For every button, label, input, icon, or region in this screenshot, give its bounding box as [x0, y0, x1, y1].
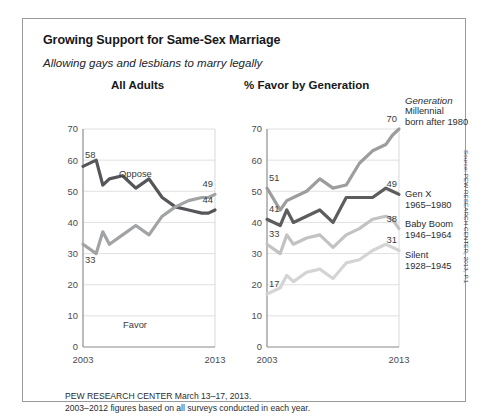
page-subtitle: Allowing gays and lesbians to marry lega… [43, 57, 262, 69]
footnote-line-1: PEW RESEARCH CENTER March 13–17, 2013. [65, 391, 251, 401]
y-axis-tick-label: 50 [68, 186, 78, 197]
y-axis-tick-label: 60 [252, 155, 262, 166]
start-value-label: 51 [269, 172, 279, 183]
footnote-line-2: 2003–2012 figures based on all surveys c… [65, 403, 310, 413]
y-axis-tick-label: 10 [68, 310, 78, 321]
end-value-label: 49 [387, 178, 397, 189]
legend-item-millennial: Millennialborn after 1980 [405, 106, 468, 128]
legend-item-years: 1928–1945 [405, 261, 452, 272]
legend-heading: Generation [405, 95, 452, 106]
legend-item-gen-x: Gen X1965–1980 [405, 189, 452, 211]
series-annotation-oppose: Oppose [119, 168, 152, 179]
y-axis-tick-label: 70 [252, 123, 262, 134]
y-axis-tick-label: 50 [252, 186, 262, 197]
y-axis-tick-label: 20 [252, 279, 262, 290]
source-credit: Source: PEW RESEARCH CENTER, 2013, P.1 [463, 150, 470, 310]
start-value-label: 33 [269, 228, 279, 239]
end-value-label: 38 [387, 213, 397, 224]
chart-by-generation: 010203040506070200320135170414933381731 [241, 115, 417, 377]
end-value-label: 44 [203, 194, 213, 205]
y-axis-tick-label: 40 [68, 217, 78, 228]
x-axis-tick-label: 2013 [389, 354, 410, 365]
start-value-label: 41 [269, 203, 279, 214]
series-line-favor [83, 194, 215, 253]
x-axis-tick-label: 2013 [205, 354, 226, 365]
start-value-label: 58 [85, 149, 95, 160]
end-value-label: 49 [203, 178, 213, 189]
legend-item-years: 1946–1964 [405, 230, 453, 241]
start-value-label: 33 [85, 254, 95, 265]
y-axis-tick-label: 30 [68, 248, 78, 259]
legend-item-baby-boom: Baby Boom1946–1964 [405, 219, 453, 241]
series-annotation-favor: Favor [123, 319, 147, 330]
y-axis-tick-label: 0 [73, 341, 78, 352]
start-value-label: 17 [269, 278, 279, 289]
series-line-millennial [267, 129, 399, 210]
end-value-label: 31 [387, 234, 397, 245]
y-axis-tick-label: 40 [252, 217, 262, 228]
y-axis-tick-label: 0 [257, 341, 262, 352]
legend-item-years: born after 1980 [405, 117, 468, 128]
page-title: Growing Support for Same-Sex Marriage [43, 33, 280, 47]
legend-item-silent: Silent1928–1945 [405, 250, 452, 272]
y-axis-tick-label: 30 [252, 248, 262, 259]
chart-card: Growing Support for Same-Sex Marriage Al… [22, 18, 466, 402]
chart-all-adults: 0102030405060702003201358443349OpposeFav… [57, 115, 233, 377]
y-axis-tick-label: 60 [68, 155, 78, 166]
legend-item-name: Baby Boom [405, 219, 453, 229]
legend-item-years: 1965–1980 [405, 200, 452, 211]
legend-item-name: Millennial [405, 106, 444, 116]
x-axis-tick-label: 2003 [257, 354, 278, 365]
chart-page: Growing Support for Same-Sex Marriage Al… [0, 0, 499, 420]
y-axis-tick-label: 20 [68, 279, 78, 290]
legend-item-name: Gen X [405, 189, 431, 199]
panel-heading-by-generation: % Favor by Generation [244, 79, 369, 91]
y-axis-tick-label: 70 [68, 123, 78, 134]
panel-heading-all-adults: All Adults [111, 79, 164, 91]
series-line-silent [267, 244, 399, 294]
series-line-gen-x [267, 188, 399, 225]
legend-item-name: Silent [405, 250, 428, 260]
end-value-label: 70 [387, 115, 397, 124]
x-axis-tick-label: 2003 [73, 354, 94, 365]
y-axis-tick-label: 10 [252, 310, 262, 321]
